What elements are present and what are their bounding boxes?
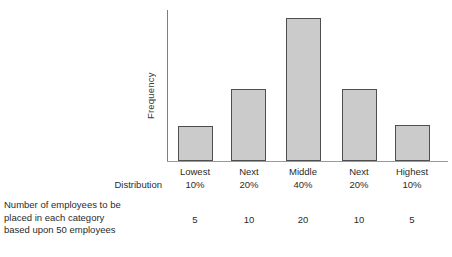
x-axis-category-label: Middle40% [271, 165, 335, 191]
category-name: Highest [380, 165, 444, 178]
employee-count-value: 20 [278, 214, 328, 225]
bar-chart-figure: Frequency Lowest10%Next20%Middle40%Next2… [0, 0, 452, 257]
bar [286, 18, 321, 161]
bar [342, 89, 377, 161]
plot-area [167, 10, 448, 162]
x-axis-category-label: Highest10% [380, 165, 444, 191]
employee-count-value: 10 [334, 214, 384, 225]
employee-count-value: 5 [387, 214, 437, 225]
employee-count-value: 5 [170, 214, 220, 225]
employees-note-line-3: based upon 50 employees [4, 224, 160, 237]
employees-note-line-1: Number of employees to be [4, 199, 160, 212]
employees-note-block: Number of employees to be placed in each… [4, 199, 160, 237]
distribution-row-label: Distribution [64, 179, 162, 190]
y-axis-title: Frequency [145, 63, 159, 129]
category-name: Middle [271, 165, 335, 178]
category-percent: 40% [271, 178, 335, 191]
category-percent: 10% [380, 178, 444, 191]
bar [231, 89, 266, 161]
bar-series [167, 10, 448, 161]
bar [395, 125, 430, 161]
bar [178, 126, 213, 161]
employee-count-value: 10 [224, 214, 274, 225]
employees-note-line-2: placed in each category [4, 212, 160, 225]
x-axis-line [167, 161, 448, 162]
